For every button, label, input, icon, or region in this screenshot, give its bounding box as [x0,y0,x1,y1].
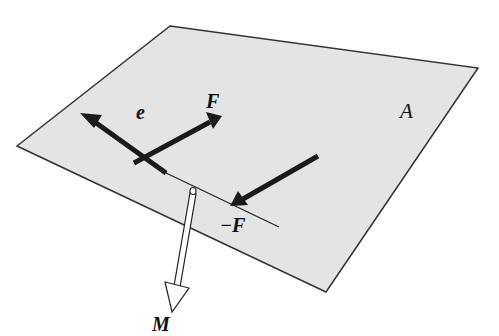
label-e: e [136,101,145,123]
force-couple-diagram: e F −F A M [0,0,499,336]
label-f: F [205,90,220,112]
label-plane-a: A [398,99,413,123]
plane-a [17,26,478,292]
label-minus-f: −F [220,214,246,236]
label-m: M [151,313,171,335]
